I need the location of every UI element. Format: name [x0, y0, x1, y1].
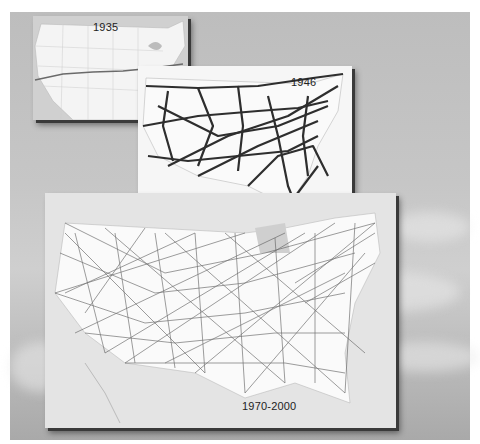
- year-label-1935: 1935: [93, 21, 118, 33]
- us-route-network-1946: [138, 66, 352, 213]
- map-1946: 1946: [138, 66, 352, 213]
- map-1970-2000: 1970-2000: [45, 193, 396, 428]
- cloud: [390, 212, 470, 242]
- year-label-1946: 1946: [291, 76, 316, 88]
- us-route-network-1970-2000: [45, 193, 396, 428]
- year-label-1970-2000: 1970-2000: [242, 400, 296, 412]
